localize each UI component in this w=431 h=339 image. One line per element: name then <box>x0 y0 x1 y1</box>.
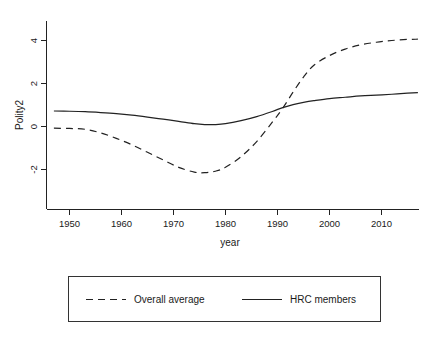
legend-label-overall-average: Overall average <box>134 294 205 305</box>
y-tick-label-0: 0 <box>28 124 39 129</box>
legend-label-hrc-members: HRC members <box>290 294 356 305</box>
x-axis-title: year <box>220 237 240 248</box>
x-tick-label-1950: 1950 <box>59 218 80 229</box>
x-tick-label-2010: 2010 <box>371 218 392 229</box>
y-axis-title: Polity2 <box>14 100 25 130</box>
x-tick-label-1960: 1960 <box>111 218 132 229</box>
chart-figure: 4 2 0 -2 Polity2 1950 1960 1970 1980 199… <box>0 0 431 339</box>
y-tick-label-2: 2 <box>28 81 39 86</box>
y-tick-label-4: 4 <box>28 38 39 43</box>
chart-legend: Overall average HRC members <box>69 277 381 322</box>
x-tick-label-1990: 1990 <box>267 218 288 229</box>
x-tick-label-1970: 1970 <box>163 218 184 229</box>
x-tick-label-2000: 2000 <box>319 218 340 229</box>
x-tick-label-1980: 1980 <box>215 218 236 229</box>
chart-svg: 4 2 0 -2 Polity2 1950 1960 1970 1980 199… <box>0 0 431 339</box>
y-tick-label-neg2: -2 <box>28 165 39 173</box>
